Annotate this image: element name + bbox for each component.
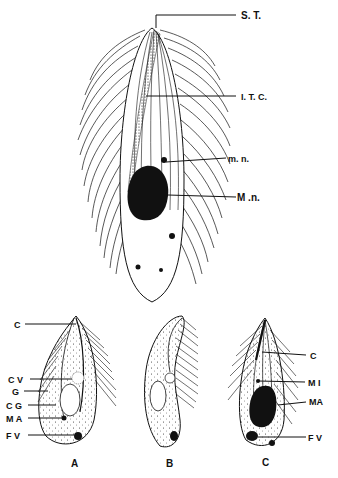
label-c-fv: F V bbox=[308, 433, 322, 443]
panel-b-food-vacuole bbox=[170, 431, 178, 441]
panel-a-body bbox=[39, 316, 97, 444]
granule bbox=[136, 265, 141, 270]
label-c-mi: M I bbox=[308, 378, 321, 388]
panel-b-body bbox=[145, 316, 185, 447]
panel-b: B bbox=[145, 316, 198, 469]
label-mn-small: m. n. bbox=[228, 154, 249, 164]
contractile-vacuole bbox=[72, 372, 84, 384]
panel-c: C M I MA F V C bbox=[228, 318, 323, 468]
label-a-cv: C V bbox=[8, 375, 23, 385]
label-a-fv: F V bbox=[6, 431, 20, 441]
label-itc: I. T. C. bbox=[241, 92, 267, 102]
label-mn-large: M .n. bbox=[237, 192, 260, 203]
ciliate-diagram: S. T. I. T. C. m. n. M .n. C C V G bbox=[0, 0, 338, 478]
panel-a-food-vacuole bbox=[74, 432, 82, 440]
label-c-ma: MA bbox=[309, 397, 323, 407]
food-vacuole-large bbox=[60, 384, 80, 416]
main-organism: S. T. I. T. C. m. n. M .n. bbox=[78, 10, 267, 302]
label-c-c: C bbox=[310, 351, 317, 361]
caption-c: C bbox=[262, 457, 269, 468]
panel-b-contractile-vacuole bbox=[165, 373, 175, 383]
panel-c-granule bbox=[269, 440, 275, 446]
granule bbox=[159, 268, 163, 272]
panel-b-vacuole bbox=[150, 381, 166, 411]
label-a-cg: C G bbox=[6, 401, 22, 411]
caption-b: B bbox=[166, 458, 173, 469]
caption-a: A bbox=[71, 458, 78, 469]
granule bbox=[169, 233, 175, 239]
panel-c-food-vacuole bbox=[246, 431, 258, 441]
label-st: S. T. bbox=[241, 10, 261, 21]
label-a-ma: M A bbox=[6, 414, 23, 424]
label-a-c: C bbox=[14, 320, 21, 330]
label-a-g: G bbox=[12, 387, 19, 397]
panel-a: C C V G C G M A F V A bbox=[6, 316, 116, 469]
panel-a-macronucleus bbox=[62, 416, 67, 421]
